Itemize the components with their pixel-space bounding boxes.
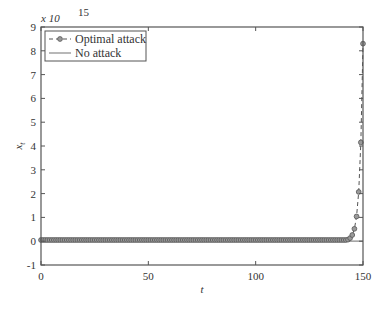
y-tick-label: 8 (31, 45, 37, 57)
y-tick-label: 4 (31, 140, 37, 152)
legend: Optimal attackNo attack (45, 31, 146, 61)
optimal-attack-marker (354, 214, 359, 219)
y-multiplier: x 10 (40, 12, 60, 24)
legend-optimal-marker (58, 37, 63, 42)
y-tick-label: 7 (31, 69, 37, 81)
y-tick-label: 2 (31, 188, 37, 200)
optimal-attack-marker (350, 233, 355, 238)
optimal-attack-line (41, 44, 363, 240)
plot-area (39, 41, 366, 242)
x-tick-label: 50 (143, 270, 155, 282)
legend-no-attack-label: No attack (75, 46, 121, 60)
x-tick-label: 100 (247, 270, 264, 282)
legend-optimal-label: Optimal attack (75, 32, 146, 46)
axes-frame (41, 27, 363, 265)
chart: -10123456789050100150x 1015txt Optimal a… (0, 0, 390, 312)
y-tick-label: 1 (31, 211, 37, 223)
y-tick-label: 3 (31, 164, 37, 176)
y-tick-label: 5 (31, 116, 37, 128)
y-tick-label: 0 (31, 235, 37, 247)
y-tick-label: -1 (27, 259, 36, 271)
x-tick-label: 0 (38, 270, 44, 282)
y-axis-label: xt (12, 142, 27, 151)
y-multiplier-exponent: 15 (78, 6, 90, 18)
y-tick-label: 9 (31, 21, 37, 33)
x-axis-label: t (200, 283, 204, 295)
y-tick-label: 6 (31, 92, 37, 104)
optimal-attack-marker (352, 226, 357, 231)
x-tick-label: 150 (355, 270, 372, 282)
